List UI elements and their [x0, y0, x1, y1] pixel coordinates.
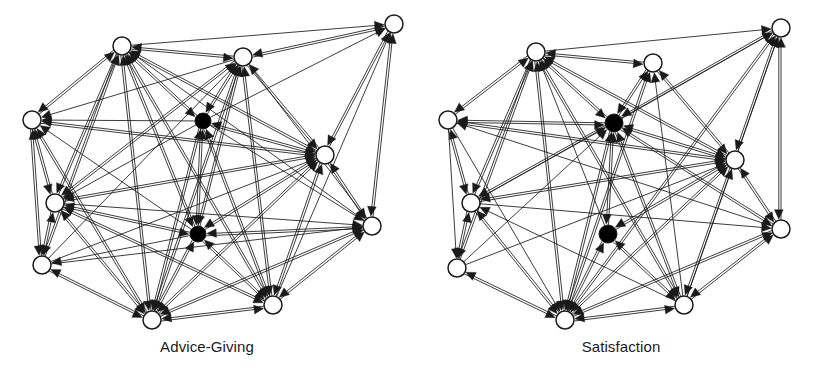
edge-line [155, 129, 199, 301]
edge-line [129, 52, 307, 147]
node-hollow[interactable] [772, 220, 790, 238]
edge-line [538, 71, 564, 310]
edge-line [545, 30, 761, 51]
node-hollow[interactable] [234, 48, 252, 66]
node-hollow[interactable] [439, 111, 457, 129]
edge-line [51, 120, 194, 121]
node-hollow[interactable] [644, 54, 662, 72]
edge-line [474, 276, 556, 316]
edge-line [575, 310, 665, 321]
panel-caption-advice-giving: Advice-Giving [0, 338, 414, 355]
edge-line [372, 33, 391, 206]
edge-line [125, 55, 262, 289]
edge-arrowhead [38, 103, 48, 112]
edge-arrowhead [47, 213, 56, 223]
edge-line [698, 233, 772, 291]
edge-line [448, 130, 463, 185]
edge-line [477, 60, 531, 185]
edge-line [555, 54, 643, 62]
edge-line [691, 241, 765, 299]
node-hollow[interactable] [556, 311, 574, 329]
edge-arrowhead [457, 122, 467, 130]
panel-caption-satisfaction: Satisfaction [414, 338, 828, 355]
edge-line [332, 31, 388, 137]
edge-arrowhead [459, 184, 467, 194]
edge-line [539, 61, 672, 289]
edge-line [171, 306, 263, 317]
node-hollow[interactable] [527, 43, 545, 61]
node-hollow[interactable] [33, 256, 51, 274]
edge-line [162, 310, 254, 321]
edge-arrowhead [615, 219, 625, 228]
edge-arrowhead [52, 257, 62, 266]
edge-line [50, 271, 134, 313]
edge-line [328, 164, 359, 211]
edge-line [584, 306, 674, 317]
node-hollow[interactable] [363, 217, 381, 235]
edge-line [546, 69, 679, 297]
edge-line [462, 56, 527, 106]
node-hollow[interactable] [772, 19, 790, 37]
node-hollow[interactable] [23, 111, 41, 129]
edge-line [255, 72, 319, 148]
edge-line [141, 48, 233, 56]
network-graph-satisfaction [414, 0, 828, 348]
edge-line [622, 247, 677, 298]
node-hollow[interactable] [264, 296, 282, 314]
edge-line [47, 54, 117, 246]
edge-line [329, 41, 385, 147]
node-solid[interactable] [599, 225, 617, 243]
edge-line [131, 26, 374, 46]
edge-arrowhead [204, 219, 214, 228]
node-hollow[interactable] [726, 151, 744, 169]
node-hollow[interactable] [448, 259, 466, 277]
edge-arrowhead [368, 206, 377, 216]
figure-sociogram-pair: Advice-Giving Satisfaction [0, 0, 828, 386]
edge-line [72, 125, 196, 194]
node-hollow[interactable] [462, 194, 480, 212]
node-hollow[interactable] [113, 37, 131, 55]
edge-line [449, 129, 456, 248]
edge-arrowhead [740, 168, 749, 178]
edge-line [488, 211, 675, 301]
edge-arrowhead [206, 102, 215, 112]
node-solid[interactable] [190, 226, 206, 242]
node-hollow[interactable] [675, 296, 693, 314]
edge-line [460, 70, 529, 259]
edge-line [72, 211, 264, 301]
edge-line [124, 56, 190, 218]
edge-line [277, 163, 320, 286]
edge-arrowhead [454, 103, 464, 112]
network-graph-advice-giving [0, 0, 414, 348]
node-hollow[interactable] [385, 15, 403, 33]
edge-line [131, 49, 223, 57]
edge-line [543, 58, 717, 152]
node-hollow[interactable] [143, 311, 161, 329]
edge-line [535, 62, 561, 301]
edge-line [373, 43, 392, 216]
edge-line [121, 56, 148, 301]
node-layer [23, 15, 403, 329]
edge-layer [448, 26, 785, 322]
panel-advice-giving: Advice-Giving [0, 0, 414, 386]
edge-line [211, 125, 306, 152]
edge-line [542, 60, 599, 112]
edge-line [465, 274, 547, 314]
edge-line [545, 55, 633, 63]
edge-arrowhead [463, 213, 472, 223]
edge-line [466, 167, 717, 265]
node-hollow[interactable] [46, 194, 64, 212]
edge-arrowhead [774, 210, 783, 220]
edge-line [245, 76, 272, 295]
edge-line [630, 133, 773, 224]
node-solid[interactable] [605, 114, 623, 132]
edge-arrowhead [633, 59, 643, 68]
edge-line [280, 238, 356, 299]
edge-line [287, 230, 363, 291]
edge-line [467, 120, 604, 122]
edge-line [462, 60, 531, 249]
node-hollow[interactable] [316, 146, 334, 164]
edge-line [210, 138, 270, 296]
edge-line [51, 122, 315, 154]
node-solid[interactable] [195, 113, 211, 129]
